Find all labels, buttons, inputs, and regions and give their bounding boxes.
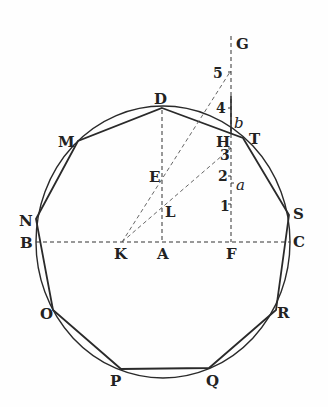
label-d: D [154,90,167,108]
label-s: S [293,205,304,223]
label-f: F [226,245,237,263]
label-c: C [293,233,305,251]
label-g: G [236,35,249,53]
label-b: B [20,234,33,252]
label-4: 4 [216,100,226,116]
label-q: Q [206,372,219,390]
line-k-3 [122,148,231,242]
nonagon-construction-diagram: D T S C R Q P O B N M K A F E L H G a b … [0,0,328,407]
label-b-small: b [234,114,244,132]
label-m: M [58,133,75,151]
label-p: P [110,372,121,390]
label-2: 2 [218,168,228,184]
label-o: O [40,305,53,323]
diagram-canvas: D T S C R Q P O B N M K A F E L H G a b … [0,0,328,407]
label-k: K [114,245,128,263]
line-k-5 [122,72,230,242]
label-t: T [249,130,261,148]
label-r: R [277,304,290,322]
label-a-small: a [236,176,245,194]
label-n: N [19,212,33,230]
label-e: E [149,168,160,186]
label-3: 3 [220,147,230,163]
label-1: 1 [220,198,230,214]
label-5: 5 [213,65,223,81]
label-a: A [156,245,169,263]
label-l: L [165,203,176,221]
